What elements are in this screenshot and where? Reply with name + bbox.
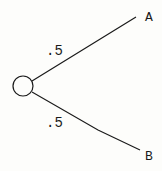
probability-tree-diagram: .5 .5 A B bbox=[0, 0, 162, 171]
outcome-label-a: A bbox=[145, 10, 153, 25]
probability-label-upper: .5 bbox=[46, 43, 63, 59]
probability-label-lower: .5 bbox=[46, 115, 63, 131]
outcome-label-b: B bbox=[145, 149, 153, 164]
background bbox=[0, 0, 162, 171]
